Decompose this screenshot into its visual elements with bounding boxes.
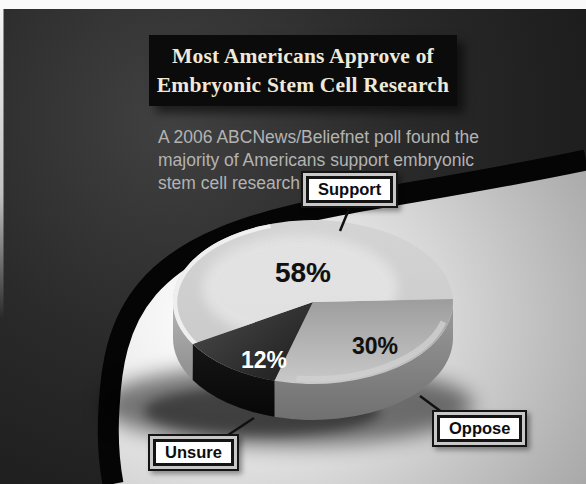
oppose-callout-label: Oppose: [437, 415, 522, 442]
support-callout-label: Support: [306, 176, 393, 203]
page-title-line2: Embryonic Stem Cell Research: [157, 71, 449, 100]
oppose-callout-box: Oppose: [432, 410, 527, 447]
page-title-line1: Most Americans Approve of: [172, 42, 434, 71]
poll-description-line1: A 2006 ABCNews/Beliefnet poll found the: [158, 126, 479, 149]
unsure-callout-box: Unsure: [148, 434, 239, 471]
percent-label-oppose: 30%: [352, 333, 398, 360]
percent-label-support: 58%: [275, 257, 331, 289]
top-white-strip: [0, 0, 586, 9]
support-callout-box: Support: [301, 171, 398, 208]
percent-label-unsure: 12%: [241, 347, 287, 374]
title-box: Most Americans Approve of Embryonic Stem…: [149, 35, 457, 106]
left-white-strip: [0, 9, 4, 319]
poll-description-line2: majority of Americans support embryonic: [158, 149, 479, 172]
unsure-callout-label: Unsure: [153, 439, 234, 466]
